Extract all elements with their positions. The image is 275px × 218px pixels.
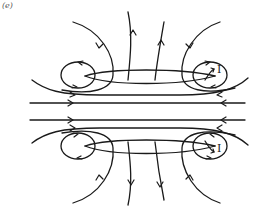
field-line-diagram: (e)	[0, 0, 275, 218]
field-lines-svg	[0, 0, 275, 218]
panel-label: (e)	[2, 1, 13, 10]
lower-current-label: I	[217, 142, 221, 155]
axial-field-lines	[30, 100, 245, 123]
upper-current-loop	[61, 61, 227, 88]
lower-outer-field-lines	[62, 131, 235, 205]
upper-current-label: I	[217, 63, 221, 76]
upper-outer-field-lines	[62, 12, 235, 92]
lower-current-loop	[61, 133, 227, 159]
